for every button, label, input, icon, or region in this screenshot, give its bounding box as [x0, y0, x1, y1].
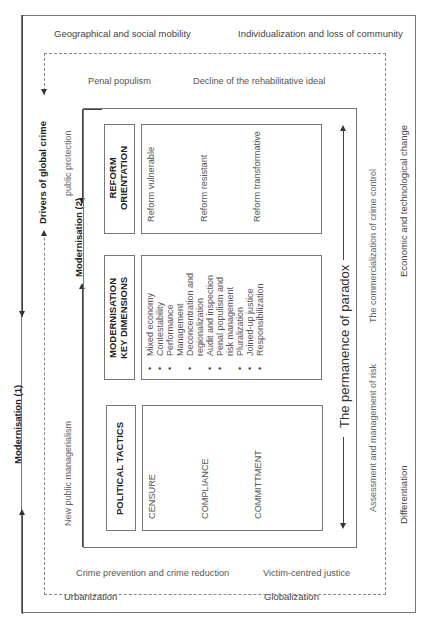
- label-decline-rehabilitative: Decline of the rehabilitative ideal: [193, 76, 325, 86]
- reform-header-line2: ORIENTATION: [118, 138, 129, 218]
- label-crime-prevention: Crime prevention and crime reduction: [76, 568, 229, 578]
- modernisation-item: •Pluralization: [235, 260, 245, 372]
- label-new-public-managerialism: New public managerialism: [63, 421, 73, 526]
- paradox-upper-line: [343, 130, 344, 260]
- modernisation-header-line1: MODERNISATION: [107, 264, 118, 372]
- label-individualization: Individualization and loss of community: [238, 28, 403, 39]
- label-commercialization-crime-control: The commercialization of crime control: [368, 169, 378, 323]
- modernisation-header-line2: KEY DIMENSIONS: [118, 264, 129, 372]
- modernisation-item: regionalization: [195, 260, 205, 372]
- label-victim-centred-justice: Victim-centred justice: [263, 568, 350, 578]
- modernisation-item: Management: [175, 260, 185, 372]
- modernisation-item: •Audit and inspection: [205, 260, 215, 372]
- modernisation-item: •Deconcentration and: [185, 260, 195, 372]
- political-item-compliance: COMPLIANCE: [200, 458, 210, 519]
- political-tactics-content-box: [142, 405, 323, 531]
- reform-item-transformative: Reform transformative: [252, 131, 262, 222]
- modernisation-item: •Contestability: [155, 260, 165, 372]
- reform-orientation-header: REFORM ORIENTATION: [107, 138, 129, 218]
- label-geographical-mobility: Geographical and social mobility: [54, 28, 191, 39]
- reform-item-resistant: Reform resistant: [199, 155, 209, 222]
- label-public-protection: public protection: [63, 130, 73, 196]
- label-permanence-of-paradox: The permanence of paradox: [337, 265, 352, 428]
- arrow-down-icon: [19, 311, 25, 317]
- label-penal-populism: Penal populism: [88, 76, 151, 86]
- modernisation-1-lower-line: [22, 514, 23, 614]
- label-differentiation: Differentiation: [398, 466, 409, 524]
- label-modernisation-1: Modernisation (1): [12, 385, 23, 464]
- modernisation-item: •Performance: [165, 260, 175, 372]
- reform-item-vulnerable: Reform vulnerable: [146, 147, 156, 222]
- modernisation-header: MODERNISATION KEY DIMENSIONS: [107, 264, 129, 372]
- modernisation-item: •Penal populism and: [215, 260, 225, 372]
- label-assessment-risk: Assessment and management of risk: [368, 364, 378, 512]
- political-item-committment: COMMITTMENT: [253, 450, 263, 519]
- label-drivers-global-crime: Drivers of global crime: [37, 121, 48, 224]
- political-item-censure: CENSURE: [147, 474, 157, 519]
- modernisation-item: •Joined-up justice: [245, 260, 255, 372]
- paradox-arrow-down-icon: [340, 523, 346, 529]
- modernisation-items-list: •Mixed economy •Contestability •Performa…: [145, 260, 265, 372]
- modernisation-item: •Responsibilization: [255, 260, 265, 372]
- political-tactics-header: POLITICAL TACTICS: [114, 422, 125, 515]
- paradox-lower-line: [343, 437, 344, 523]
- modernisation-item: risk management: [225, 260, 235, 372]
- reform-orientation-content-box: [141, 124, 322, 234]
- modernisation-item: •Mixed economy: [145, 260, 155, 372]
- reform-header-line1: REFORM: [107, 138, 118, 218]
- drivers-arrow-up-icon: [41, 230, 47, 236]
- modernisation-1-upper-line: [22, 15, 23, 317]
- label-economic-technological-change: Economic and technological change: [398, 125, 409, 277]
